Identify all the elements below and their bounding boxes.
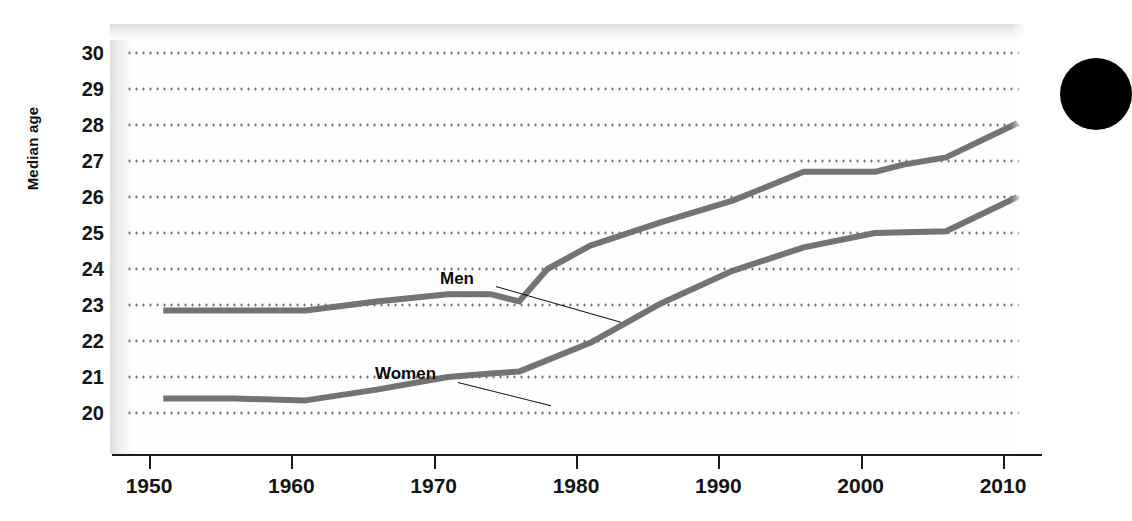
series-label-men: Men bbox=[440, 269, 474, 289]
y-tick-label: 27 bbox=[60, 151, 104, 171]
x-tick-mark bbox=[861, 456, 863, 469]
x-tick-label: 1950 bbox=[104, 474, 194, 498]
y-axis-title: Median age bbox=[24, 69, 41, 229]
x-tick-label: 1970 bbox=[389, 474, 479, 498]
x-tick-mark bbox=[149, 456, 151, 469]
series-label-women: Women bbox=[375, 364, 436, 384]
x-tick-label: 1960 bbox=[246, 474, 336, 498]
y-tick-label: 29 bbox=[60, 79, 104, 99]
x-tick-mark bbox=[291, 456, 293, 469]
x-tick-mark bbox=[718, 456, 720, 469]
x-tick-label: 1990 bbox=[673, 474, 763, 498]
x-tick-label: 2000 bbox=[816, 474, 906, 498]
x-tick-mark bbox=[576, 456, 578, 469]
y-tick-label: 24 bbox=[60, 259, 104, 279]
x-tick-mark bbox=[434, 456, 436, 469]
x-tick-mark bbox=[1003, 456, 1005, 469]
y-tick-label: 25 bbox=[60, 223, 104, 243]
x-tick-label: 1980 bbox=[531, 474, 621, 498]
series-lines bbox=[110, 24, 1041, 454]
y-tick-label: 26 bbox=[60, 187, 104, 207]
plot-area: Men Women bbox=[110, 24, 1041, 454]
y-tick-label: 20 bbox=[60, 403, 104, 423]
series-line-men bbox=[163, 123, 1017, 310]
y-tick-label: 28 bbox=[60, 115, 104, 135]
y-tick-label: 30 bbox=[60, 43, 104, 63]
y-axis-tick-labels: 2021222324252627282930 bbox=[52, 0, 104, 521]
x-tick-label: 2010 bbox=[958, 474, 1048, 498]
y-tick-label: 23 bbox=[60, 295, 104, 315]
y-tick-label: 22 bbox=[60, 331, 104, 351]
page-bullet-decoration bbox=[1060, 58, 1132, 130]
series-line-women bbox=[163, 197, 1017, 400]
y-tick-label: 21 bbox=[60, 367, 104, 387]
